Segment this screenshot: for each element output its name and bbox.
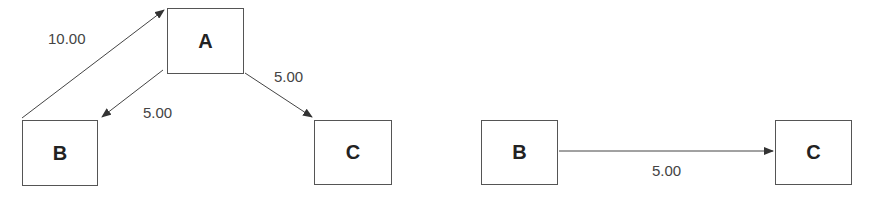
edge-b-to-a-weight: 10.00 <box>48 30 86 47</box>
node-a-label: A <box>198 30 212 53</box>
node-c-right-label: C <box>806 141 820 164</box>
node-c-right[interactable]: C <box>775 120 852 185</box>
node-b-right[interactable]: B <box>481 120 558 185</box>
node-c[interactable]: C <box>314 120 392 185</box>
edge-a-to-c-weight: 5.00 <box>274 68 303 85</box>
edge-b-to-a <box>22 10 164 118</box>
node-c-label: C <box>346 141 360 164</box>
edges-layer <box>0 0 877 198</box>
edge-b-to-c-right-weight: 5.00 <box>652 162 681 179</box>
node-b-label: B <box>53 142 67 165</box>
node-b-right-label: B <box>512 141 526 164</box>
node-a[interactable]: A <box>167 8 244 74</box>
edge-a-to-b-weight: 5.00 <box>143 104 172 121</box>
node-b[interactable]: B <box>22 120 98 186</box>
